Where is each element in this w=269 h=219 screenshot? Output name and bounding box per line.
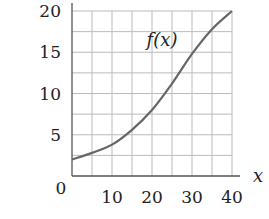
y-tick-labels: 5101520	[39, 1, 61, 145]
x-tick-label: 30	[181, 187, 203, 207]
curve-annotation: f(x)	[145, 29, 178, 50]
x-tick-label: 40	[221, 187, 243, 207]
x-tick-label: 10	[101, 187, 123, 207]
chart: 5101520 10203040 0 x f(x)	[0, 0, 269, 219]
origin-label: 0	[56, 178, 67, 198]
x-axis-label: x	[253, 165, 263, 186]
y-tick-label: 10	[39, 84, 61, 104]
x-tick-label: 20	[141, 187, 163, 207]
y-tick-label: 15	[39, 42, 61, 62]
x-tick-labels: 10203040	[101, 187, 243, 207]
y-tick-label: 20	[39, 1, 61, 21]
y-tick-label: 5	[50, 125, 61, 145]
